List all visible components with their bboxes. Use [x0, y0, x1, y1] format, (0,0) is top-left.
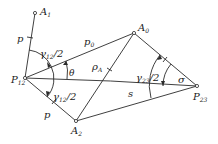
label-gamma12-upper: γ12/2 [40, 48, 63, 60]
label-p23: P23 [192, 91, 208, 103]
line-a2-p23 [76, 86, 197, 121]
line-p12-a1 [25, 13, 35, 78]
label-p-lower: p [44, 109, 51, 120]
label-gamma12-lower: γ12/2 [53, 91, 76, 103]
point-a1 [33, 11, 36, 14]
label-sigma: σ [178, 74, 186, 85]
planar-linkage-pole-diagram: A1 A0 P12 A2 P23 p p p0 ρA θ s σ γ12/2 γ… [0, 0, 218, 144]
tick-p-upper [27, 37, 33, 38]
line-p12-p23 [25, 78, 197, 86]
label-s: s [128, 88, 133, 99]
point-a0 [132, 31, 135, 34]
point-p23 [195, 84, 198, 87]
point-a2 [74, 119, 77, 122]
label-p0: p0 [84, 36, 94, 48]
label-p-upper: p [17, 33, 24, 44]
label-theta: θ [69, 68, 75, 78]
label-a1: A1 [39, 6, 51, 18]
label-a2: A2 [70, 125, 82, 137]
label-rhoA: ρA [91, 61, 103, 73]
label-p12: P12 [10, 74, 26, 86]
label-a0: A0 [137, 22, 149, 34]
label-gamma23: γ23/2 [136, 72, 159, 84]
